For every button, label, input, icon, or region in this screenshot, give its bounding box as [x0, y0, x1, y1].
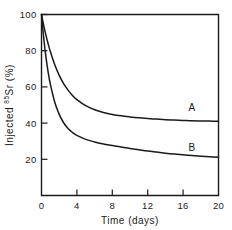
curve-label-A: A [189, 102, 196, 113]
x-axis-title: Time (days) [101, 215, 159, 226]
curve-label-B: B [189, 142, 196, 153]
x-tick-label-12: 12 [142, 200, 153, 211]
data-series-group [42, 15, 219, 158]
x-tick-label-20: 20 [213, 200, 224, 211]
chart-canvas: 20406080100 048121620 AB Time (days) Inj… [0, 0, 232, 230]
figure-container: 20406080100 048121620 AB Time (days) Inj… [0, 0, 232, 230]
y-axis-title-superscript: 85 [3, 95, 10, 103]
y-axis-title-prefix: Injected [4, 104, 15, 146]
series-annotations: AB [189, 102, 196, 153]
x-tick-label-16: 16 [178, 200, 189, 211]
curve-B [42, 15, 219, 158]
y-axis-title: Injected 85Sr (%) [3, 64, 15, 146]
y-axis-title-suffix: Sr (%) [4, 64, 15, 95]
x-tick-label-8: 8 [110, 200, 116, 211]
x-axis-ticks [77, 190, 183, 196]
y-tick-label-40: 40 [25, 118, 36, 129]
x-tick-label-0: 0 [39, 200, 45, 211]
y-tick-label-60: 60 [25, 81, 36, 92]
y-tick-label-20: 20 [25, 154, 36, 165]
y-tick-label-100: 100 [20, 9, 37, 20]
x-axis-tick-labels: 048121620 [39, 200, 224, 211]
x-tick-label-4: 4 [74, 200, 80, 211]
y-axis-tick-labels: 20406080100 [20, 9, 37, 165]
y-tick-label-80: 80 [25, 45, 36, 56]
